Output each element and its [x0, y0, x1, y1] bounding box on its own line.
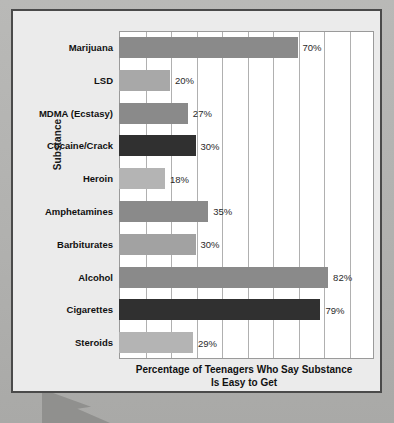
bar-row: 29% [119, 332, 374, 353]
bar-row: 70% [119, 37, 374, 58]
chart-frame: Substance MarijuanaLSDMDMA (Ecstasy)Coca… [11, 9, 382, 393]
bar-series: 70%20%27%30%18%35%30%82%79%29% [119, 31, 374, 359]
bar [119, 201, 208, 222]
x-axis-title-line1: Percentage of Teenagers Who Say Substanc… [136, 364, 353, 375]
x-axis-title-line2: Is Easy to Get [211, 377, 277, 388]
bar [119, 103, 188, 124]
bar [119, 70, 170, 91]
bar-value-label: 20% [175, 75, 194, 86]
bar-value-label: 27% [193, 108, 212, 119]
x-axis-title: Percentage of Teenagers Who Say Substanc… [109, 364, 379, 389]
bar [119, 37, 298, 58]
category-label: Amphetamines [9, 206, 113, 217]
bar-row: 30% [119, 135, 374, 156]
bar [119, 135, 196, 156]
bar-value-label: 70% [303, 42, 322, 53]
bar [119, 234, 196, 255]
bar [119, 332, 193, 353]
category-label: Cigarettes [9, 304, 113, 315]
bar-row: 20% [119, 70, 374, 91]
bar-row: 79% [119, 299, 374, 320]
bar-value-label: 30% [201, 140, 220, 151]
category-label: Marijuana [9, 42, 113, 53]
bar-row: 30% [119, 234, 374, 255]
bar-row: 35% [119, 201, 374, 222]
category-label: LSD [9, 75, 113, 86]
bar [119, 267, 328, 288]
plot-area: MarijuanaLSDMDMA (Ecstasy)Cocaine/CrackH… [119, 31, 374, 359]
bar-value-label: 79% [325, 304, 344, 315]
category-label: Cocaine/Crack [9, 140, 113, 151]
category-label: Heroin [9, 173, 113, 184]
bar-value-label: 18% [170, 173, 189, 184]
category-label: Alcohol [9, 272, 113, 283]
bar-row: 18% [119, 168, 374, 189]
bar [119, 299, 320, 320]
bar-value-label: 82% [333, 272, 352, 283]
bar-value-label: 30% [201, 239, 220, 250]
bar-value-label: 35% [213, 206, 232, 217]
category-label: Steroids [9, 337, 113, 348]
bar-row: 27% [119, 103, 374, 124]
bar-value-label: 29% [198, 337, 217, 348]
category-label: MDMA (Ecstasy) [9, 108, 113, 119]
category-label: Barbiturates [9, 239, 113, 250]
bar [119, 168, 165, 189]
bar-row: 82% [119, 267, 374, 288]
category-axis-labels: MarijuanaLSDMDMA (Ecstasy)Cocaine/CrackH… [13, 31, 113, 359]
